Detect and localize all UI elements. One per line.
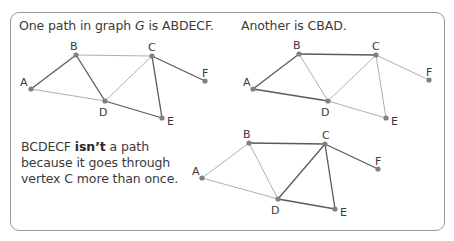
vertex-label-f: F — [426, 66, 432, 79]
vertex-c — [373, 52, 378, 57]
edge-cf — [325, 144, 378, 169]
edge-cd — [278, 144, 325, 199]
vertex-label-d: D — [99, 106, 107, 119]
vertex-c — [322, 141, 327, 146]
vertex-a — [199, 175, 204, 180]
vertex-label-a: A — [20, 76, 28, 89]
edge-cb — [299, 54, 376, 55]
edge-ec — [152, 56, 162, 118]
vertex-d — [102, 98, 107, 103]
vertex-a — [28, 86, 33, 91]
vertex-label-d: D — [271, 204, 279, 217]
edge-ab — [202, 143, 249, 178]
vertex-label-a: A — [243, 76, 251, 89]
vertex-d — [275, 196, 280, 201]
graph-3: ABCDEF — [192, 128, 381, 219]
edge-de — [328, 101, 386, 118]
edge-ec — [325, 144, 335, 209]
edge-ad — [202, 178, 278, 199]
vertex-a — [250, 86, 255, 91]
edge-ce — [376, 55, 386, 118]
vertex-e — [332, 206, 337, 211]
edge-bc — [76, 55, 152, 56]
vertex-e — [383, 115, 388, 120]
vertex-label-c: C — [148, 41, 156, 54]
edge-bd — [249, 143, 278, 199]
vertex-label-f: F — [202, 67, 208, 80]
edge-ad — [31, 89, 105, 101]
vertex-b — [296, 51, 301, 56]
vertex-b — [246, 140, 251, 145]
vertex-label-b: B — [70, 40, 78, 53]
edge-cd — [328, 55, 376, 101]
edge-bc — [249, 143, 325, 144]
edge-cf — [152, 56, 205, 81]
vertex-c — [149, 53, 154, 58]
vertex-label-e: E — [391, 115, 398, 128]
vertex-b — [73, 52, 78, 57]
vertex-label-c: C — [372, 40, 380, 53]
vertex-d — [325, 98, 330, 103]
graph-2: ABCDEF — [243, 39, 432, 128]
graph-diagrams: ABCDEFABCDEFABCDEF — [0, 0, 454, 241]
edge-cd — [105, 56, 152, 101]
vertex-label-e: E — [340, 206, 347, 219]
edge-de — [105, 101, 162, 118]
vertex-label-f: F — [375, 155, 381, 168]
vertex-label-b: B — [293, 39, 301, 52]
edge-ab — [31, 55, 76, 89]
edge-de — [278, 199, 335, 209]
edge-ba — [253, 54, 299, 89]
vertex-label-a: A — [192, 165, 200, 178]
vertex-label-d: D — [321, 106, 329, 119]
graph-1: ABCDEF — [20, 40, 208, 128]
edge-bd — [76, 55, 105, 101]
edge-bd — [299, 54, 328, 101]
vertex-label-c: C — [322, 129, 330, 142]
vertex-e — [159, 115, 164, 120]
edge-ad — [253, 89, 328, 101]
edge-cf — [376, 55, 429, 80]
vertex-label-e: E — [167, 115, 174, 128]
vertex-label-b: B — [243, 128, 251, 141]
